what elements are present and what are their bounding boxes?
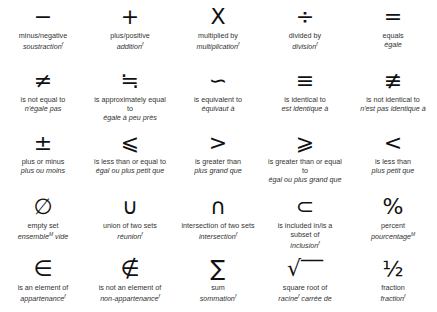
french-label: équivaut à: [174, 104, 262, 113]
union-symbol-icon: ∪: [86, 194, 174, 218]
symbol-card-element-of: ∈is an element ofappartenancef: [0, 256, 87, 303]
gender-mark: f: [62, 41, 63, 47]
less-equal-symbol-icon: ⩽: [86, 130, 174, 154]
gender-mark: f: [238, 41, 239, 47]
french-term: addition: [117, 42, 142, 51]
french-label: égale à peu près: [86, 113, 174, 122]
french-label: inclusionf: [261, 239, 349, 250]
french-label: appartenancef: [0, 292, 87, 303]
english-label: is less than or equal to: [86, 157, 174, 166]
english-label: is not an element of: [86, 283, 174, 292]
symbol-card-not-equal: ≠is not equal ton'égale pas: [0, 68, 87, 113]
not-element-of-symbol-icon: ∉: [86, 256, 174, 280]
french-label: n'égale pas: [0, 104, 87, 113]
symbol-card-square-root: √‾‾square root ofracinef carrée de: [261, 256, 349, 303]
french-term: inclusion: [290, 241, 318, 250]
plus-minus-symbol-icon: ±: [0, 130, 87, 154]
symbol-card-subset: ⊂is included in/is a subset ofinclusionf: [261, 194, 349, 250]
symbol-card-equivalent: ∽is equivalent toéquivaut à: [174, 68, 262, 113]
french-term: n'égale pas: [25, 104, 62, 113]
french-label: multiplicationf: [174, 40, 262, 51]
french-term: égale à peu près: [103, 113, 157, 122]
english-label: is not identical to: [349, 95, 437, 104]
french-term: non-appartenance: [100, 294, 158, 303]
symbol-card-not-element-of: ∉is not an element ofnon-appartenancef: [86, 256, 174, 303]
english-label: fraction: [349, 283, 437, 292]
equals-symbol-icon: =: [349, 4, 437, 28]
french-term: racine: [278, 294, 298, 303]
french-label: ensembleM vide: [0, 230, 87, 241]
percent-symbol-icon: %: [349, 194, 437, 218]
french-label: est identique à: [261, 104, 349, 113]
english-label: multiplied by: [174, 31, 262, 40]
symbol-card-less: <is less thanplus petit que: [349, 130, 437, 175]
french-term: pourcentage: [371, 232, 411, 241]
gender-mark: f: [316, 41, 317, 47]
french-term: soustraction: [23, 42, 62, 51]
english-label: is greater than or equal to: [261, 157, 349, 175]
french-term: plus petit que: [372, 166, 415, 175]
element-of-symbol-icon: ∈: [0, 256, 87, 280]
symbol-card-greater: >is greater thanplus grand que: [174, 130, 262, 175]
french-label: divisionf: [261, 40, 349, 51]
gender-mark: f: [318, 240, 319, 246]
less-symbol-icon: <: [349, 130, 437, 154]
french-label: égal ou plus grand que: [261, 175, 349, 184]
french-term: n'est pas identique à: [360, 104, 426, 113]
greater-equal-symbol-icon: ⩾: [261, 130, 349, 154]
french-label: n'est pas identique à: [349, 104, 437, 113]
minus-symbol-icon: −: [0, 4, 87, 28]
french-label: racinef carrée de: [261, 292, 349, 303]
english-label: is an element of: [0, 283, 87, 292]
english-label: is included in/is a subset of: [261, 221, 349, 239]
approx-equal-symbol-icon: ≒: [86, 68, 174, 92]
french-term: ensemble: [18, 232, 49, 241]
empty-set-symbol-icon: ∅: [0, 194, 87, 218]
symbol-card-plus-minus: ±plus or minusplus ou moins: [0, 130, 87, 175]
english-label: is greater than: [174, 157, 262, 166]
symbol-card-multiply: Xmultiplied bymultiplicationf: [174, 4, 262, 51]
symbol-card-less-equal: ⩽is less than or equal toégal ou plus pe…: [86, 130, 174, 175]
french-label: égal ou plus petit que: [86, 166, 174, 175]
english-label: intersection of two sets: [174, 221, 262, 230]
symbol-card-sum: ∑sumsommationf: [174, 256, 262, 303]
french-term: intersection: [199, 232, 236, 241]
french-term: plus ou moins: [21, 166, 65, 175]
french-term: appartenance: [20, 294, 64, 303]
french-term: plus grand que: [194, 166, 242, 175]
english-label: minus/negative: [0, 31, 87, 40]
french-term-suffix: carrée de: [299, 294, 331, 303]
english-label: percent: [349, 221, 437, 230]
english-label: is approximately equal to: [86, 95, 174, 113]
gender-mark: f: [236, 231, 237, 237]
equivalent-symbol-icon: ∽: [174, 68, 262, 92]
english-label: is identical to: [261, 95, 349, 104]
symbol-card-percent: %percentpourcentageM: [349, 194, 437, 241]
multiply-symbol-icon: X: [174, 4, 262, 28]
symbol-card-minus: −minus/negativesoustractionf: [0, 4, 87, 51]
french-term: égal ou plus petit que: [96, 166, 164, 175]
french-label: pourcentageM: [349, 230, 437, 241]
plus-symbol-icon: +: [86, 4, 174, 28]
french-term: réunion: [117, 232, 141, 241]
french-label: intersectionf: [174, 230, 262, 241]
symbol-card-union: ∪union of two setsréunionf: [86, 194, 174, 241]
symbol-card-empty-set: ∅empty setensembleM vide: [0, 194, 87, 241]
gender-mark: f: [64, 293, 65, 299]
gender-mark: M: [411, 231, 415, 237]
french-label: réunionf: [86, 230, 174, 241]
greater-symbol-icon: >: [174, 130, 262, 154]
intersection-symbol-icon: ∩: [174, 194, 262, 218]
subset-symbol-icon: ⊂: [261, 194, 349, 218]
english-label: is not equal to: [0, 95, 87, 104]
symbol-card-equals: =equalségale: [349, 4, 437, 49]
french-term: équivaut à: [201, 104, 234, 113]
french-label: plus petit que: [349, 166, 437, 175]
english-label: sum: [174, 283, 262, 292]
english-label: divided by: [261, 31, 349, 40]
english-label: is less than: [349, 157, 437, 166]
french-label: plus grand que: [174, 166, 262, 175]
gender-mark: f: [158, 293, 159, 299]
french-label: sommationf: [174, 292, 262, 303]
symbol-card-intersection: ∩intersection of two setsintersectionf: [174, 194, 262, 241]
